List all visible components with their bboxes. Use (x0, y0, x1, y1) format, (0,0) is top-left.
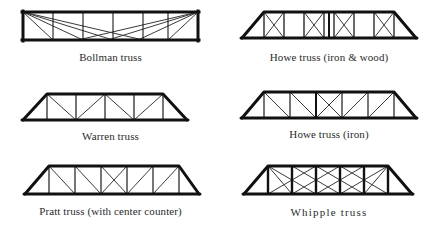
caption-pratt-truss-center-counter: Pratt truss (with center counter) (39, 205, 182, 217)
caption-warren-truss: Warren truss (82, 130, 139, 142)
whipple-truss-diagram (238, 158, 421, 200)
figure-whipple-truss: Whipple truss (222, 158, 436, 218)
caption-whipple-truss: Whipple truss (290, 206, 367, 218)
warren-truss-diagram (19, 86, 202, 126)
figure-bollman-truss: Bollman truss (2, 8, 219, 63)
caption-bollman-truss: Bollman truss (79, 51, 142, 63)
truss-types-figure: Bollman truss (0, 0, 438, 229)
figure-howe-truss-iron-wood: Howe truss (iron & wood) (222, 4, 436, 63)
caption-howe-truss-iron: Howe truss (iron) (289, 128, 368, 140)
howe-truss-iron-wood-diagram (238, 4, 421, 44)
pratt-truss-diagram (19, 158, 202, 200)
figure-warren-truss: Warren truss (2, 86, 219, 142)
howe-truss-iron-diagram (238, 84, 421, 124)
bollman-truss-diagram (19, 8, 202, 44)
figure-howe-truss-iron: Howe truss (iron) (222, 84, 436, 140)
caption-howe-truss-iron-wood: Howe truss (iron & wood) (270, 51, 389, 63)
figure-pratt-truss-center-counter: Pratt truss (with center counter) (2, 158, 219, 217)
